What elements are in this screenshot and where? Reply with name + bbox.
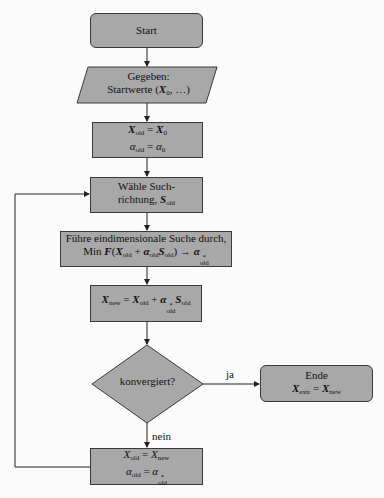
end-line1: Ende <box>305 369 328 382</box>
reset-node: Xold = Xnew αold = α*old <box>90 448 203 485</box>
given-line2: Startwerte (X0, …) <box>107 83 190 100</box>
edge-label-yes: ja <box>226 368 234 380</box>
init-line1: Xold = X0 <box>128 123 167 140</box>
search-line1: Führe eindimensionale Suche durch, <box>66 232 227 245</box>
given-node: Gegeben: Startwerte (X0, …) <box>80 67 217 103</box>
converged-label: konvergiert? <box>92 375 203 387</box>
line-search-node: Führe eindimensionale Suche durch, Min F… <box>60 231 232 267</box>
choose-direction-node: Wähle Such- richtung, Sold <box>90 177 203 213</box>
search-line2: Min F(Xold + αoldSold) → α*old <box>83 245 208 266</box>
choose-line2: richtung, Sold <box>118 193 175 210</box>
start-node: Start <box>90 13 203 48</box>
init-line2: αold = α0 <box>130 140 166 157</box>
reset-line2: αold = α*old <box>126 465 167 486</box>
edge-label-no: nein <box>152 430 171 442</box>
reset-line1: Xold = Xnew <box>124 448 170 465</box>
end-line2: Xextr = Xnew <box>292 382 341 399</box>
choose-line1: Wähle Such- <box>118 180 175 193</box>
init-node: Xold = X0 αold = α0 <box>92 122 203 158</box>
start-label: Start <box>136 24 157 37</box>
end-node: Ende Xextr = Xnew <box>260 365 373 402</box>
update-equation: Xnew = Xold + α*oldSold <box>102 293 191 314</box>
update-node: Xnew = Xold + α*oldSold <box>90 285 202 322</box>
given-line1: Gegeben: <box>127 70 169 83</box>
